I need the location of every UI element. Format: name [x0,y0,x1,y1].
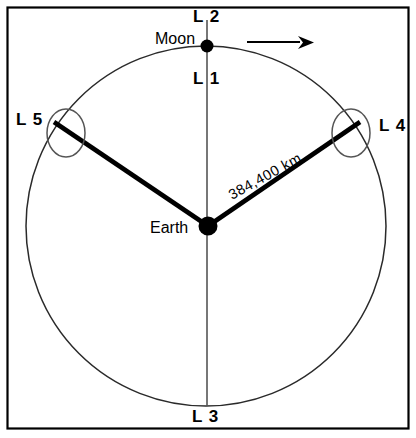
diagram-canvas: Moon Earth L 2 L 1 L 3 L 4 L 5 384,400 k… [0,0,416,438]
moon-label: Moon [155,30,195,47]
l1-label: L 1 [193,69,220,88]
l3-label: L 3 [192,407,219,426]
earth-dot-icon [199,217,218,236]
moon-dot-icon [201,40,214,53]
l2-label: L 2 [193,7,220,26]
lagrange-point-diagram: Moon Earth L 2 L 1 L 3 L 4 L 5 384,400 k… [0,0,416,438]
l5-label: L 5 [16,110,43,129]
l4-label: L 4 [379,116,406,135]
earth-label: Earth [150,219,188,236]
